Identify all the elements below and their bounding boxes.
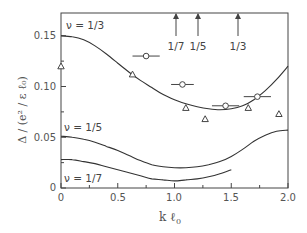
triangle-markers [58, 63, 282, 122]
axis-ticks [61, 36, 288, 188]
triangle-marker-icon [276, 111, 282, 117]
triangle-marker-icon [202, 116, 208, 122]
svg-text:1/3: 1/3 [230, 40, 247, 52]
label-nu-1-3: ν = 1/3 [66, 19, 104, 31]
svg-text:1/7: 1/7 [168, 40, 185, 52]
svg-text:1/5: 1/5 [190, 40, 207, 52]
x-tick-label: 1.0 [166, 192, 182, 203]
label-nu-1-7: ν = 1/7 [64, 172, 102, 184]
x-tick-label: 2.0 [280, 192, 296, 203]
y-tick-label: 0.10 [34, 81, 56, 92]
circle-marker-icon [255, 94, 261, 100]
x-axis-title: k ℓ0 [159, 210, 181, 226]
arrowhead-icon [195, 13, 201, 19]
arrowhead-icon [173, 13, 179, 19]
y-tick-label: 0.15 [34, 30, 56, 41]
triangle-marker-icon [58, 63, 64, 69]
circle-marker-icon [180, 82, 186, 88]
y-tick-label: 0 [50, 182, 56, 193]
x-tick-label: 0.5 [110, 192, 126, 203]
x-tick-label: 1.5 [223, 192, 239, 203]
circle-marker-icon [223, 103, 229, 109]
curve-nu-1-5 [61, 130, 288, 168]
label-nu-1-5: ν = 1/5 [64, 121, 102, 133]
arrow-1-5: 1/5 [190, 13, 207, 52]
y-axis-title: Δ / (e² / ε ℓ₀) [16, 76, 29, 144]
triangle-marker-icon [245, 105, 251, 111]
arrow-1-3: 1/3 [230, 13, 247, 52]
chart: 0 0.5 1.0 1.5 2.0 0 0.05 0.10 0.15 k ℓ0 … [0, 0, 307, 233]
arrowhead-icon [235, 13, 241, 19]
circle-marker-icon [143, 53, 149, 59]
triangle-marker-icon [183, 105, 189, 111]
y-tick-label: 0.05 [34, 132, 56, 143]
arrow-1-7: 1/7 [168, 13, 185, 52]
x-tick-label: 0 [58, 192, 64, 203]
triangle-marker-icon [129, 71, 135, 77]
circle-markers [133, 53, 271, 108]
